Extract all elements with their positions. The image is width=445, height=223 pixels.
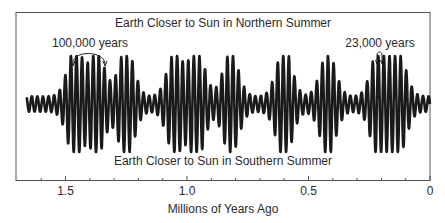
annotation-23k: 23,000 years xyxy=(345,36,414,50)
svg-text:1.0: 1.0 xyxy=(179,184,196,198)
x-axis-tick-labels: 1.51.00.50 xyxy=(57,184,434,198)
bottom-label: Earth Closer to Sun in Southern Summer xyxy=(114,154,332,168)
svg-text:0: 0 xyxy=(427,184,434,198)
svg-text:0.5: 0.5 xyxy=(300,184,317,198)
annotation-100k: 100,000 years xyxy=(52,36,128,50)
x-axis-ticks xyxy=(41,176,430,181)
orbital-cycles-chart: Earth Closer to Sun in Northern Summer E… xyxy=(0,0,445,223)
x-axis-label: Millions of Years Ago xyxy=(168,202,279,216)
top-label: Earth Closer to Sun in Northern Summer xyxy=(115,16,331,30)
svg-text:1.5: 1.5 xyxy=(57,184,74,198)
precession-wave-line xyxy=(27,56,430,152)
